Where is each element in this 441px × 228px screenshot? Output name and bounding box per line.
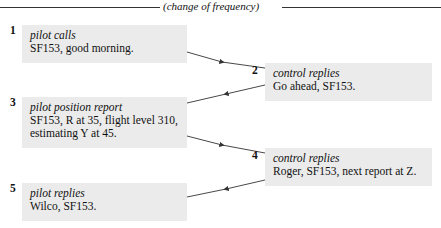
step-role: pilot replies [30,187,179,200]
step-message: Roger, SF153, next report at Z. [273,165,424,178]
step-message-line-1: SF153, R at 35, flight level 310, [30,114,179,127]
step-message: Wilco, SF153. [30,200,179,213]
step-box-5: pilot replies Wilco, SF153. [22,183,187,221]
step-number-2: 2 [252,64,258,76]
step-box-3: pilot position report SF153, R at 35, fl… [22,97,187,148]
step-box-4: control replies Roger, SF153, next repor… [265,148,432,186]
step-message: SF153, good morning. [30,42,179,55]
step-number-4: 4 [252,149,258,161]
step-role: pilot calls [30,29,179,42]
step-role: control replies [273,152,424,165]
step-number-1: 1 [10,24,16,36]
step-role: pilot position report [30,101,179,114]
step-box-2: control replies Go ahead, SF153. [265,63,432,101]
step-message-line-2: estimating Y at 45. [30,127,179,140]
step-number-5: 5 [10,182,16,194]
step-number-3: 3 [10,96,16,108]
step-box-1: pilot calls SF153, good morning. [22,25,187,63]
step-role: control replies [273,67,424,80]
step-message: Go ahead, SF153. [273,80,424,93]
